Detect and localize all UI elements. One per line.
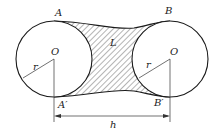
arrow-right-icon	[163, 114, 170, 118]
label-l: L	[109, 37, 117, 48]
label-o-right: O	[170, 46, 178, 57]
two-circles-diagram: A B O O r r L A′ B′ h	[0, 0, 224, 132]
arrow-left-icon	[54, 114, 61, 118]
label-b-prime: B′	[153, 97, 164, 108]
label-a: A	[54, 7, 62, 18]
label-a-prime: A′	[57, 99, 68, 110]
label-h: h	[110, 119, 116, 130]
label-b: B	[164, 5, 172, 16]
label-o-left: O	[51, 46, 59, 57]
